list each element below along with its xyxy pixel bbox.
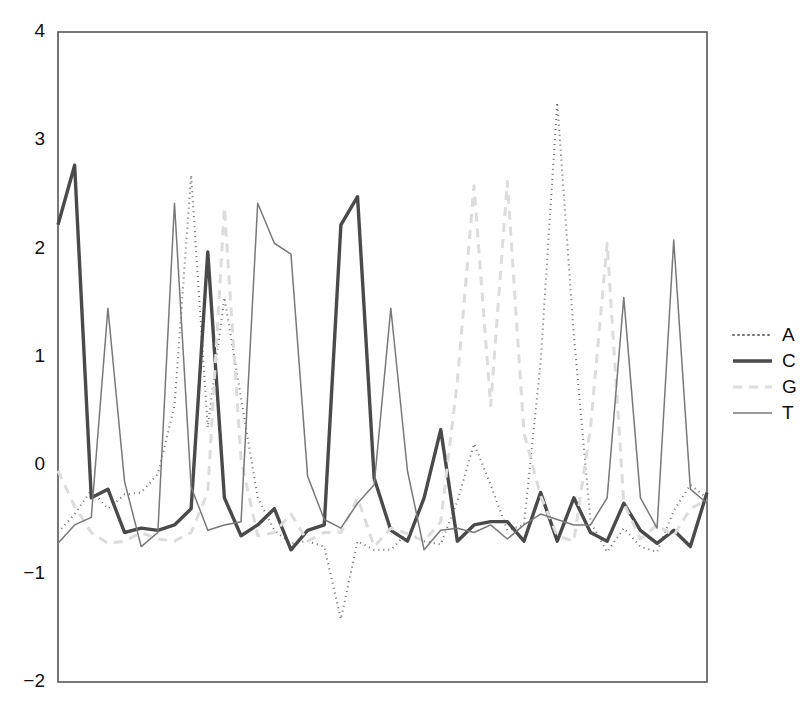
- figure-background: [0, 0, 809, 712]
- y-tick-label: 4: [34, 20, 45, 41]
- legend-label-c: C: [782, 350, 796, 371]
- y-tick-label: −1: [23, 562, 45, 583]
- y-tick-label: 2: [34, 237, 45, 258]
- legend-label-a: A: [782, 324, 795, 345]
- y-tick-label: 1: [34, 345, 45, 366]
- line-chart-figure: −2−101234 ACGT: [0, 0, 809, 712]
- y-tick-label: −2: [23, 670, 45, 691]
- legend-label-g: G: [782, 376, 797, 397]
- legend-label-t: T: [782, 402, 794, 423]
- y-tick-label: 0: [34, 453, 45, 474]
- y-tick-label: 3: [34, 128, 45, 149]
